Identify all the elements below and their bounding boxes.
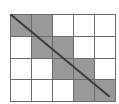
grid-cell-shaded bbox=[11, 15, 32, 37]
grid-cell-shaded bbox=[95, 80, 116, 102]
grid-body bbox=[11, 15, 116, 102]
grid-cell-empty bbox=[74, 36, 95, 58]
grid-cell-empty bbox=[95, 58, 116, 80]
grid-cell-empty bbox=[53, 80, 74, 102]
grid-cell-empty bbox=[11, 80, 32, 102]
grid-cell-empty bbox=[32, 58, 53, 80]
grid-cell-shaded bbox=[32, 36, 53, 58]
grid-cell-shaded bbox=[32, 15, 53, 37]
grid-cell-empty bbox=[32, 80, 53, 102]
grid-row bbox=[11, 80, 116, 102]
grid-row bbox=[11, 15, 116, 37]
grid-cell-shaded bbox=[74, 58, 95, 80]
grid-cell-empty bbox=[95, 36, 116, 58]
grid-cell-empty bbox=[11, 58, 32, 80]
shaded-grid bbox=[10, 14, 116, 102]
grid-cell-empty bbox=[53, 15, 74, 37]
grid-cell-empty bbox=[11, 36, 32, 58]
grid-cell-empty bbox=[95, 15, 116, 37]
figure-root bbox=[0, 0, 119, 104]
grid-container bbox=[10, 14, 110, 97]
grid-cell-shaded bbox=[74, 80, 95, 102]
grid-cell-empty bbox=[74, 15, 95, 37]
grid-cell-shaded bbox=[53, 36, 74, 58]
grid-row bbox=[11, 58, 116, 80]
grid-cell-shaded bbox=[53, 58, 74, 80]
grid-row bbox=[11, 36, 116, 58]
